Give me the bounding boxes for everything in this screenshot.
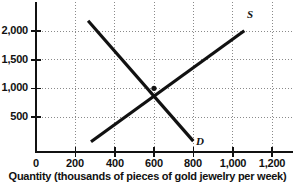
equilibrium-point-marker xyxy=(151,86,156,91)
x-tick-label-0: 0 xyxy=(26,157,46,169)
x-axis-title: Quantity (thousands of pieces of gold je… xyxy=(0,170,295,182)
x-tick-label-1000: 1,000 xyxy=(211,157,255,169)
x-tick-label-600: 600 xyxy=(134,157,174,169)
x-tick-label-1200: 1,200 xyxy=(250,157,294,169)
x-tick-label-800: 800 xyxy=(173,157,213,169)
y-tick-label-1000: 1,000 xyxy=(0,81,28,93)
x-tick-label-400: 400 xyxy=(95,157,135,169)
supply-curve xyxy=(91,31,244,142)
x-tick-label-200: 200 xyxy=(55,157,95,169)
horizontal-gridlines xyxy=(36,31,293,117)
vertical-gridlines xyxy=(75,2,272,151)
y-tick-label-2000: 2,000 xyxy=(0,24,28,36)
y-tick-label-500: 500 xyxy=(0,110,28,122)
demand-curve-label: D xyxy=(196,135,204,147)
supply-demand-chart: 2,000 1,500 1,000 500 0 200 400 600 800 … xyxy=(0,0,295,188)
supply-curve-label: S xyxy=(247,8,253,20)
y-tick-label-1500: 1,500 xyxy=(0,53,28,65)
